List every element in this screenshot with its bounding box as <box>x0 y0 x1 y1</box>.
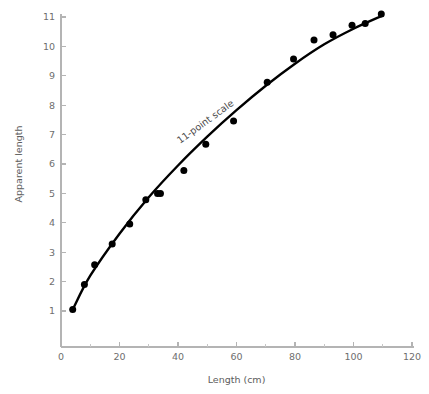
data-point-marker <box>330 31 337 38</box>
x-tick-label: 100 <box>344 351 362 362</box>
data-point-marker <box>81 281 88 288</box>
x-tick-label: 60 <box>230 351 242 362</box>
x-tick-label: 80 <box>289 351 301 362</box>
y-tick-label: 6 <box>49 158 55 169</box>
y-axis-title: Apparent length <box>13 126 24 203</box>
data-point-marker <box>264 79 271 86</box>
data-point-marker <box>362 20 369 27</box>
data-point-marker <box>349 22 356 29</box>
y-tick-label: 5 <box>49 188 55 199</box>
data-point-marker <box>202 141 209 148</box>
y-tick-label: 10 <box>43 41 55 52</box>
x-axis-title: Length (cm) <box>208 374 266 385</box>
data-point-marker <box>142 196 149 203</box>
x-tick-label: 120 <box>403 351 421 362</box>
y-tick-label: 11 <box>43 11 55 22</box>
y-tick-label: 2 <box>49 276 55 287</box>
x-tick-label: 20 <box>113 351 125 362</box>
x-tick-label: 40 <box>172 351 184 362</box>
data-point-marker <box>91 261 98 268</box>
data-point-marker <box>180 167 187 174</box>
data-point-marker <box>230 118 237 125</box>
data-point-marker <box>157 190 164 197</box>
x-tick-label: 0 <box>58 351 64 362</box>
y-tick-label: 7 <box>49 129 55 140</box>
plot-background <box>0 0 429 394</box>
y-tick-label: 1 <box>49 305 55 316</box>
y-tick-label: 9 <box>49 70 55 81</box>
y-tick-label: 4 <box>49 217 55 228</box>
y-tick-label: 8 <box>49 100 55 111</box>
scatter-plot: 1234567891011 020406080100120 11-point s… <box>0 0 429 394</box>
data-point-marker <box>126 220 133 227</box>
data-point-marker <box>311 36 318 43</box>
y-tick-label: 3 <box>49 247 55 258</box>
chart-figure: 1234567891011 020406080100120 11-point s… <box>0 0 429 394</box>
data-point-marker <box>378 11 385 18</box>
data-point-marker <box>69 306 76 313</box>
data-point-marker <box>109 240 116 247</box>
data-point-marker <box>290 56 297 63</box>
